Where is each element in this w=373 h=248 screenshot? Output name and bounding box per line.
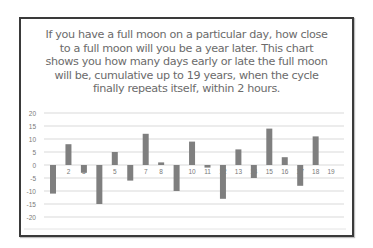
y-tick-label: -15 bbox=[27, 201, 37, 208]
bar bbox=[112, 152, 118, 165]
x-axis-labels: 12345678910111213141516171819 bbox=[51, 168, 335, 175]
y-axis-labels: 20151050-5-10-15-20 bbox=[27, 110, 37, 221]
y-tick-label: 5 bbox=[32, 149, 36, 156]
bar bbox=[205, 165, 211, 168]
bar bbox=[174, 165, 180, 191]
bar-chart: 20151050-5-10-15-20 12345678910111213141… bbox=[0, 0, 373, 248]
x-tick-label: 10 bbox=[188, 168, 196, 175]
x-tick-label: 5 bbox=[113, 168, 117, 175]
x-tick-label: 13 bbox=[235, 168, 243, 175]
y-tick-label: 20 bbox=[29, 110, 37, 117]
bar bbox=[251, 165, 257, 178]
bars bbox=[50, 129, 319, 204]
y-tick-label: -20 bbox=[27, 214, 37, 221]
bar bbox=[189, 142, 195, 165]
x-tick-label: 18 bbox=[312, 168, 320, 175]
bar bbox=[220, 165, 226, 199]
x-tick-label: 2 bbox=[67, 168, 71, 175]
bar bbox=[65, 144, 71, 165]
x-tick-label: 11 bbox=[204, 168, 211, 175]
x-tick-label: 16 bbox=[281, 168, 289, 175]
bar bbox=[266, 129, 272, 165]
bar bbox=[297, 165, 303, 186]
bar bbox=[313, 136, 319, 165]
bar bbox=[127, 165, 133, 181]
bar bbox=[50, 165, 56, 194]
x-tick-label: 19 bbox=[327, 168, 335, 175]
bar bbox=[96, 165, 102, 204]
y-tick-label: -10 bbox=[27, 188, 37, 195]
bar bbox=[158, 162, 164, 165]
bar bbox=[143, 134, 149, 165]
x-tick-label: 15 bbox=[266, 168, 274, 175]
x-tick-label: 7 bbox=[144, 168, 148, 175]
x-tick-label: 8 bbox=[159, 168, 163, 175]
y-tick-label: 15 bbox=[29, 123, 37, 130]
bar bbox=[81, 165, 87, 173]
y-tick-label: 10 bbox=[29, 136, 37, 143]
y-tick-label: -5 bbox=[30, 175, 36, 182]
y-tick-label: 0 bbox=[32, 162, 36, 169]
bar bbox=[235, 149, 241, 165]
bar bbox=[282, 157, 288, 165]
